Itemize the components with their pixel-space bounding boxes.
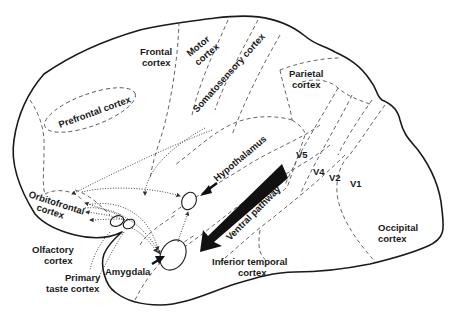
label-occipital: Occipital	[378, 222, 418, 233]
label-v2: V2	[329, 172, 341, 183]
region-boundaries	[30, 20, 385, 300]
label-occipital-2: cortex	[378, 233, 407, 244]
label-frontal: Frontal	[140, 46, 172, 57]
label-hypothalamus: Hypothalamus	[211, 133, 268, 184]
hypothalamus-node	[179, 190, 199, 212]
label-primary-taste-2: taste cortex	[46, 283, 100, 294]
label-parietal: Parietal	[289, 68, 323, 79]
label-v1: V1	[350, 178, 362, 189]
label-inferior-temporal-2: cortex	[238, 267, 267, 278]
label-v5: V5	[296, 149, 308, 160]
label-primary-taste: Primary	[65, 272, 101, 283]
label-frontal-2: cortex	[142, 57, 171, 68]
label-prefrontal: Prefrontal cortex	[57, 93, 133, 130]
brain-diagram: Frontal cortex Motor cortex Somatosensor…	[0, 0, 455, 315]
label-olfactory-2: cortex	[44, 255, 73, 266]
label-parietal-2: cortex	[292, 79, 321, 90]
label-inferior-temporal: Inferior temporal	[212, 256, 288, 267]
label-amygdala: Amygdala	[105, 266, 151, 277]
label-olfactory: Olfactory	[32, 244, 74, 255]
label-v4: V4	[313, 166, 325, 177]
labels: Frontal cortex Motor cortex Somatosensor…	[27, 30, 418, 294]
